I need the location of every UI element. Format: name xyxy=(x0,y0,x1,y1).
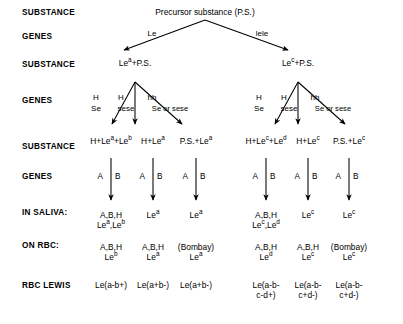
gene-label-le: Le xyxy=(148,30,157,39)
col-4-substance: H+Lec+Led xyxy=(245,137,286,147)
gene-grp-left-top-0: H xyxy=(93,94,99,103)
col-1-gene-a: A xyxy=(98,172,103,181)
row-label-on-rbc: ON RBC: xyxy=(22,241,59,251)
col-2-gene-a: A xyxy=(140,172,145,181)
gene-grp-right-bottom-2: Se or sese xyxy=(315,105,351,114)
col-4-rbc: A,B,HLed xyxy=(255,243,277,262)
col-5-gene-b: B xyxy=(312,172,317,181)
col-5-phenotype: Le(a-b-c+d-) xyxy=(295,281,322,300)
row-label-in-saliva: IN SALIVA: xyxy=(22,208,68,218)
gene-grp-left-top-1: H xyxy=(118,94,124,103)
row-label-substance-3: SUBSTANCE xyxy=(22,142,75,152)
gene-grp-left-bottom-0: Se xyxy=(91,105,101,114)
col-3-saliva: Lea xyxy=(190,211,203,221)
col-6-gene-a: A xyxy=(336,172,341,181)
row-label-genes-1: GENES xyxy=(22,32,52,42)
gene-grp-right-top-0: H xyxy=(256,94,262,103)
col-1-saliva: A,B,HLea,Leb xyxy=(97,211,125,230)
gene-grp-right-top-1: H xyxy=(281,94,287,103)
col-3-rbc: (Bombay)Lea xyxy=(178,243,214,262)
col-6-saliva: Lec xyxy=(343,211,356,221)
lewis-blood-group-diagram: SUBSTANCE GENES SUBSTANCE GENES SUBSTANC… xyxy=(0,0,403,324)
col-2-gene-b: B xyxy=(157,172,162,181)
col-2-rbc: A,B,HLea xyxy=(142,243,164,262)
row-label-genes-3: GENES xyxy=(22,172,52,182)
col-1-gene-b: B xyxy=(115,172,120,181)
gene-grp-left-bottom-2: Se or sese xyxy=(152,105,188,114)
connector-lines xyxy=(0,0,403,324)
col-6-substance: P.S.+Lec xyxy=(333,137,365,147)
col-4-gene-b: B xyxy=(270,172,275,181)
gene-grp-right-bottom-0: Se xyxy=(254,105,264,114)
gene-label-lele: lele xyxy=(256,30,268,39)
col-6-gene-b: B xyxy=(353,172,358,181)
col-2-substance: H+Lea xyxy=(141,137,165,147)
gene-grp-left-bottom-1: sese xyxy=(118,105,135,114)
col-3-gene-b: B xyxy=(200,172,205,181)
col-1-rbc: A,B,HLeb xyxy=(100,243,122,262)
row-label-substance-2: SUBSTANCE xyxy=(22,60,75,70)
gene-grp-left-top-2: hh xyxy=(148,94,157,103)
col-2-saliva: Lea xyxy=(147,211,160,221)
col-2-phenotype: Le(a+b-) xyxy=(137,281,169,291)
col-6-rbc: (Bombay)Lec xyxy=(331,243,367,262)
gene-grp-right-bottom-1: sese xyxy=(281,105,298,114)
col-1-phenotype: Le(a-b+) xyxy=(95,281,127,291)
col-4-saliva: A,B,HLec,Led xyxy=(252,211,280,230)
col-3-phenotype: Le(a+b-) xyxy=(180,281,212,291)
col-4-phenotype: Le(a-b-c-d+) xyxy=(253,281,280,300)
col-5-saliva: Lec xyxy=(302,211,315,221)
col-3-gene-a: A xyxy=(183,172,188,181)
col-1-substance: H+Lea+Leb xyxy=(90,137,132,147)
col-4-gene-a: A xyxy=(253,172,258,181)
node-precursor-substance: Precursor substance (P.S.) xyxy=(155,8,254,18)
col-5-gene-a: A xyxy=(295,172,300,181)
row-label-phenotype: RBC LEWIS xyxy=(22,281,71,291)
col-3-substance: P.S.+Lea xyxy=(180,137,213,147)
node-lec-ps: Lec+P.S. xyxy=(282,59,314,69)
row-label-substance-1: SUBSTANCE xyxy=(22,8,75,18)
col-5-substance: H+Lec xyxy=(296,137,319,147)
node-lea-ps: Lea+P.S. xyxy=(119,59,152,69)
row-label-genes-2: GENES xyxy=(22,96,52,106)
col-6-phenotype: Le(a-b-c+d-) xyxy=(336,281,363,300)
gene-grp-right-top-2: hh xyxy=(311,94,320,103)
col-5-rbc: A,B,HLec xyxy=(297,243,319,262)
